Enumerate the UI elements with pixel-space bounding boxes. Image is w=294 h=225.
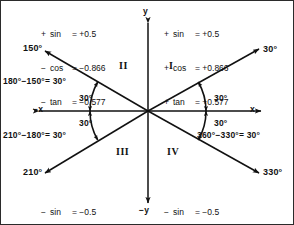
fn-tan-q1: tan [173,97,195,108]
values-q1-row-cos: +cos= +0.866 [164,63,229,74]
reference-angle-label-q2: 30° [79,94,92,103]
sign-cos-q2: − [41,63,50,74]
quadrant-label-1: I [169,61,173,71]
fn-cos-q2: cos [50,63,72,74]
values-q2-row-cos: −cos= −0.866 [41,63,106,74]
reference-angle-label-q3: 30° [79,119,92,128]
equation-quadrant-2: 180°−150°= 30° [3,77,66,86]
equation-quadrant-4: 360°−330°= 30° [197,131,260,140]
eq-sin-q4: = [195,207,200,217]
ray-label-210: 210° [23,168,42,177]
sign-sin-q2: + [41,29,50,40]
axis-label-negative-y: −y [139,206,149,215]
fn-cos-q1: cos [173,63,195,74]
equation-quadrant-3: 210°−180°= 30° [3,131,66,140]
values-quadrant-1: +sin= +0.5 +cos= +0.866 +tan= +0.577 [164,7,229,130]
values-quadrant-3: −sin= −0.5 −cos= −0.866 +tan= +0.577 [41,185,106,225]
values-q3-row-sin: −sin= −0.5 [41,207,106,218]
ray-label-150: 150° [23,44,42,53]
values-q4-row-sin: −sin= −0.5 [164,207,229,218]
fn-sin-q1: sin [173,29,195,40]
eq-cos-q1: = [195,63,200,73]
eq-sin-q3: = [72,207,77,217]
sign-sin-q3: − [41,207,50,218]
ray-label-330: 330° [263,168,282,177]
value-cos-q1: +0.866 [202,63,228,73]
axis-label-negative-x: −x [33,105,43,114]
eq-sin-q2: = [72,29,77,39]
axis-label-positive-x: x [250,105,255,114]
axis-label-positive-y: y [143,7,148,16]
sign-tan-q1: + [164,97,173,108]
eq-sin-q1: = [195,29,200,39]
value-cos-q2: −0.866 [79,63,105,73]
values-q2-row-sin: +sin= +0.5 [41,29,106,40]
sign-sin-q1: + [164,29,173,40]
fn-sin-q4: sin [173,207,195,218]
eq-cos-q2: = [72,63,77,73]
reference-angle-label-q4: 30° [214,119,227,128]
eq-tan-q2: = [72,97,77,107]
quadrant-label-2: II [119,61,128,71]
quadrant-label-4: IV [167,147,179,157]
fn-sin-q3: sin [50,207,72,218]
reference-angle-diagram: +sin= +0.5 −cos= −0.866 −tan= −0.577 +si… [0,0,294,225]
values-quadrant-2: +sin= +0.5 −cos= −0.866 −tan= −0.577 [41,7,106,130]
values-q1-row-sin: +sin= +0.5 [164,29,229,40]
value-sin-q1: +0.5 [202,29,219,39]
values-quadrant-4: −sin= −0.5 +cos= +0.866 −tan= −0.577 [164,185,229,225]
quadrant-label-3: III [116,147,129,157]
value-sin-q4: −0.5 [202,207,219,217]
ray-label-30: 30° [263,45,277,54]
values-q2-row-tan: −tan= −0.577 [41,97,106,108]
sign-sin-q4: − [164,207,173,218]
value-sin-q2: +0.5 [79,29,96,39]
fn-sin-q2: sin [50,29,72,40]
fn-tan-q2: tan [50,97,72,108]
eq-tan-q1: = [195,97,200,107]
value-sin-q3: −0.5 [79,207,96,217]
reference-angle-label-q1: 30° [214,94,227,103]
